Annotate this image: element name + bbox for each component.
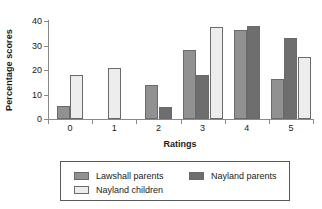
legend-entry: Lawshall parents <box>74 171 164 181</box>
x-axis-title: Ratings <box>45 139 315 150</box>
bar <box>57 106 70 119</box>
x-tick-label: 2 <box>147 124 169 133</box>
legend-swatch-icon <box>74 186 89 194</box>
y-tick-label: 0 <box>22 115 42 124</box>
legend: Lawshall parentsNayland parentsNayland c… <box>60 161 290 201</box>
x-tick-label: 1 <box>103 124 125 133</box>
y-tick-label: 20 <box>22 66 42 75</box>
bar <box>108 68 121 119</box>
x-tick-mark <box>225 120 226 124</box>
bar <box>159 107 172 119</box>
bar <box>284 38 297 119</box>
plot-area <box>48 21 313 119</box>
legend-swatch-icon <box>74 172 89 180</box>
bar <box>247 26 260 119</box>
x-tick-label: 5 <box>280 124 302 133</box>
legend-entry: Nayland parents <box>189 171 277 181</box>
x-tick-mark <box>136 120 137 124</box>
bar <box>298 57 311 119</box>
bar <box>183 50 196 119</box>
x-tick-mark <box>181 120 182 124</box>
bar <box>271 79 284 119</box>
bar <box>70 75 83 119</box>
y-tick-label: 40 <box>22 17 42 26</box>
bar <box>210 27 223 119</box>
y-tick-label: 30 <box>22 42 42 51</box>
bar <box>234 30 247 119</box>
x-tick-label: 3 <box>192 124 214 133</box>
x-tick-mark <box>269 120 270 124</box>
bar <box>196 75 209 119</box>
legend-label: Nayland children <box>96 185 163 195</box>
x-tick-label: 4 <box>236 124 258 133</box>
bar-chart: Percentage scores 010203040 012345 Ratin… <box>0 0 322 209</box>
x-tick-mark <box>48 120 49 124</box>
y-axis-title: Percentage scores <box>2 18 16 122</box>
legend-label: Nayland parents <box>211 171 277 181</box>
x-tick-mark <box>313 120 314 124</box>
x-tick-label: 0 <box>59 124 81 133</box>
x-tick-mark <box>92 120 93 124</box>
bar <box>145 85 158 119</box>
legend-swatch-icon <box>189 172 204 180</box>
y-tick-label: 10 <box>22 91 42 100</box>
legend-entry: Nayland children <box>74 185 163 195</box>
legend-label: Lawshall parents <box>96 171 164 181</box>
